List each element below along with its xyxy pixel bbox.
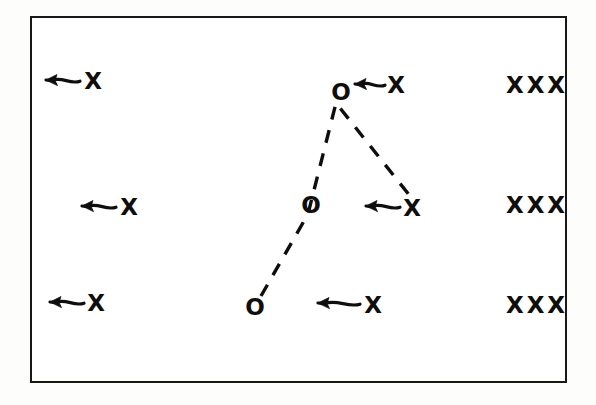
marker-x-left-top: X: [84, 70, 102, 93]
marker-x-center-top: X: [387, 74, 405, 97]
marker-o-bottom: O: [245, 296, 265, 319]
diagram-canvas: XXXOOOXXXXXXXXXXXX: [0, 0, 596, 405]
marker-xxx-bottom: XXX: [506, 294, 568, 317]
diagram-frame-border: [30, 16, 567, 383]
marker-o-top: O: [331, 81, 351, 104]
marker-xxx-middle: XXX: [506, 194, 568, 217]
marker-o-middle: O: [301, 194, 321, 217]
marker-x-left-bottom: X: [87, 292, 105, 315]
marker-x-center-middle: X: [403, 197, 421, 220]
marker-x-center-bottom: X: [364, 294, 382, 317]
marker-x-left-middle: X: [120, 196, 138, 219]
marker-xxx-top: XXX: [506, 74, 568, 97]
